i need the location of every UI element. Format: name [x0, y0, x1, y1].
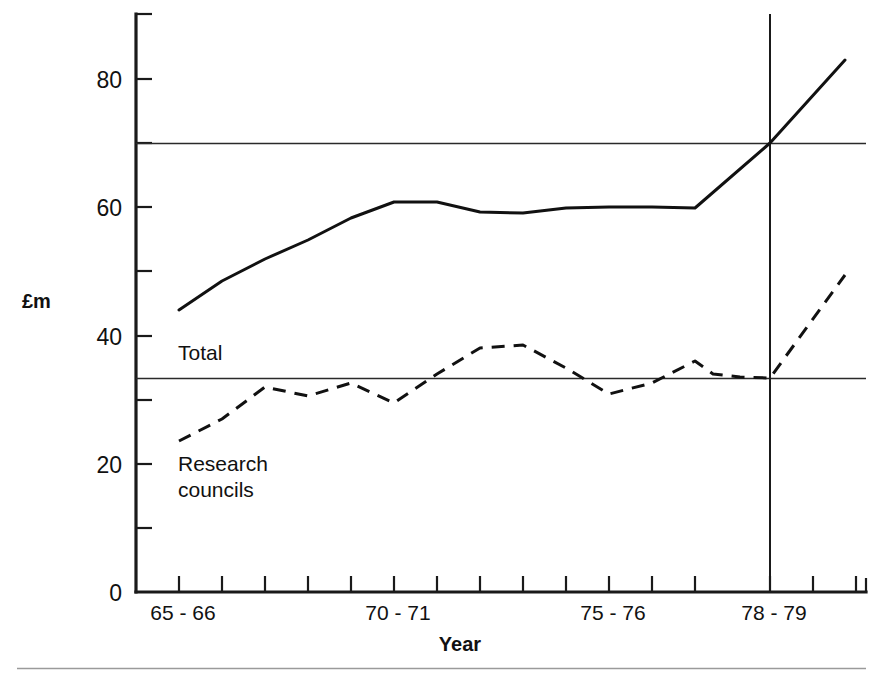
axes-group	[136, 14, 866, 592]
y-tick-label-40: 40	[96, 324, 122, 350]
y-tick-label-0: 0	[109, 580, 122, 606]
x-tick-label-78-79: 78 - 79	[741, 601, 806, 624]
chart-figure: 80 60 40 20 0 65 - 66	[0, 0, 883, 678]
x-tick-label-75-76: 75 - 76	[580, 601, 645, 624]
x-tick-label-70-71: 70 - 71	[365, 601, 430, 624]
chart-svg: 80 60 40 20 0 65 - 66	[0, 0, 883, 678]
series-line-total	[179, 60, 845, 310]
y-tick-labels-group: 80 60 40 20 0	[96, 67, 122, 606]
x-ticks-group	[179, 576, 856, 592]
series-line-research-councils	[179, 275, 845, 441]
y-axis-title: £m	[22, 290, 51, 312]
research-councils-series-label-line1: Research	[178, 452, 268, 475]
y-tick-label-60: 60	[96, 195, 122, 221]
total-series-label: Total	[178, 341, 222, 364]
x-tick-label-65-66: 65 - 66	[150, 601, 215, 624]
x-tick-labels-group: 65 - 66 70 - 71 75 - 76 78 - 79	[150, 601, 806, 624]
reference-lines-group	[136, 14, 866, 592]
y-tick-label-80: 80	[96, 67, 122, 93]
y-ticks-group	[136, 79, 152, 528]
x-axis-title: Year	[439, 633, 481, 655]
research-councils-series-label-line2: councils	[178, 478, 254, 501]
y-tick-label-20: 20	[96, 452, 122, 478]
